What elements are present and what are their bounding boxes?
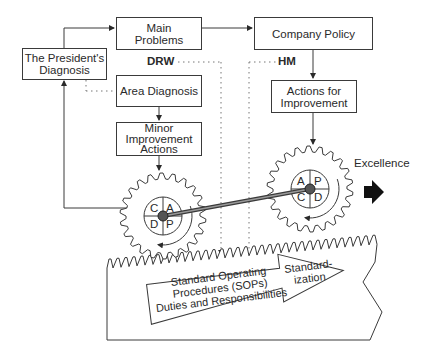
right-gear-quadrant-c: C: [297, 191, 305, 203]
left-gear-quadrant-c: C: [150, 202, 158, 214]
right-gear-quadrant-p: P: [314, 175, 322, 187]
company-policy-box: Company Policy: [254, 17, 373, 50]
main-problems-box: Main Problems: [116, 17, 202, 50]
left-gear-quadrant-d: D: [150, 218, 158, 230]
left-gear-quadrant-a: A: [166, 202, 174, 214]
excellence-label: Excellence: [354, 157, 410, 169]
area-diagnosis-box: Area Diagnosis: [116, 75, 202, 107]
right-gear-quadrant-d: D: [314, 191, 322, 203]
hm-label: HM: [278, 55, 296, 67]
actions-for-improvement-box: Actions for Improvement: [271, 80, 357, 113]
presidents-diagnosis-box: The President's Diagnosis: [22, 48, 107, 80]
excellence-arrow-icon: [364, 180, 384, 204]
right-gear-quadrant-a: A: [297, 175, 305, 187]
drw-label: DRW: [147, 55, 174, 67]
pdca-diagram: The President's Diagnosis Main Problems …: [0, 0, 426, 345]
minor-improvement-actions-box: Minor Improvement Actions: [116, 122, 202, 156]
left-gear-quadrant-p: P: [166, 218, 174, 230]
